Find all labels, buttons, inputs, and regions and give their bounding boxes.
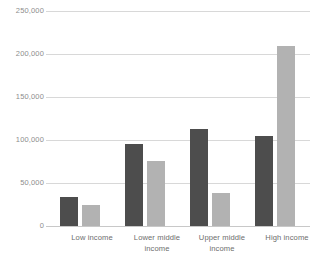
x-axis-labels: Low income Lower middle income Upper mid… (46, 232, 310, 273)
bar-chart: 250,000 200,000 150,000 100,000 50,000 0… (0, 0, 318, 273)
bar-upper-middle-income-series1[interactable] (190, 129, 208, 226)
bar-low-income-series2[interactable] (82, 205, 100, 227)
x-label-high-income: High income (237, 232, 318, 243)
x-label-upper-middle-income-line2: income (172, 243, 272, 254)
bar-high-income-series2[interactable] (277, 46, 295, 226)
bar-lower-middle-income-series1[interactable] (125, 144, 143, 226)
bar-low-income-series1[interactable] (60, 197, 78, 226)
bar-lower-middle-income-series2[interactable] (147, 161, 165, 226)
plot-area: 250,000 200,000 150,000 100,000 50,000 0… (0, 0, 318, 273)
bar-high-income-series1[interactable] (255, 136, 273, 226)
bar-upper-middle-income-series2[interactable] (212, 193, 230, 227)
x-label-high-income-line1: High income (237, 232, 318, 243)
